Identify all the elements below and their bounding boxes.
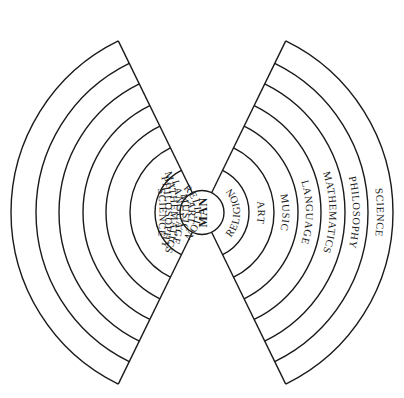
left-arc-7 [11, 41, 118, 384]
center-label: MAN [196, 197, 210, 227]
left-label-science: SCIENCE [156, 187, 169, 237]
wedge-labels: RELIGIONARTMUSICLANGUAGEMATHEMATICSPHILO… [156, 170, 386, 255]
left-arc-3 [106, 126, 160, 299]
concentric-wedge-diagram: RELIGIONARTMUSICLANGUAGEMATHEMATICSPHILO… [0, 0, 404, 398]
right-label-language: LANGUAGE [299, 179, 315, 246]
right-label-science: SCIENCE [373, 187, 386, 237]
right-label-philosophy: PHILOSOPHY [347, 175, 362, 250]
right-label-religion: RELIGION [224, 186, 243, 239]
left-arc-5 [59, 84, 139, 341]
left-arc-4 [83, 106, 150, 320]
right-label-mathematics: MATHEMATICS [321, 170, 338, 255]
right-arc-3 [244, 126, 298, 299]
right-label-art: ART [255, 200, 267, 225]
right-label-music: MUSIC [278, 193, 291, 232]
